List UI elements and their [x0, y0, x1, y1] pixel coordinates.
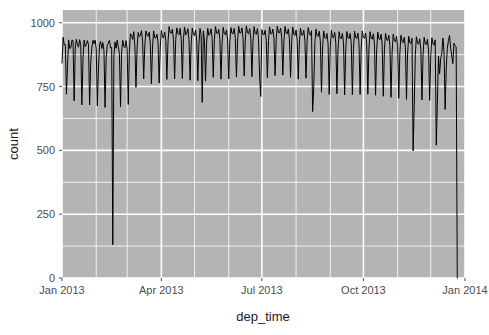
x-tick-label: Oct 2013: [341, 284, 386, 296]
x-tick-label: Apr 2013: [139, 284, 184, 296]
y-tick-label: 750: [37, 81, 55, 93]
line-chart: 02505007501000 Jan 2013Apr 2013Jul 2013O…: [0, 0, 489, 335]
x-tick-label: Jan 2013: [39, 284, 84, 296]
plot-panel: [62, 10, 465, 278]
y-tick-label: 500: [37, 144, 55, 156]
chart-container: 02505007501000 Jan 2013Apr 2013Jul 2013O…: [0, 0, 489, 335]
y-axis-title: count: [6, 128, 21, 160]
y-tick-label: 0: [49, 272, 55, 284]
x-axis-title: dep_time: [236, 309, 289, 324]
y-tick-label: 1000: [31, 17, 55, 29]
y-tick-label: 250: [37, 208, 55, 220]
x-tick-label: Jan 2014: [442, 284, 487, 296]
x-tick-label: Jul 2013: [241, 284, 283, 296]
